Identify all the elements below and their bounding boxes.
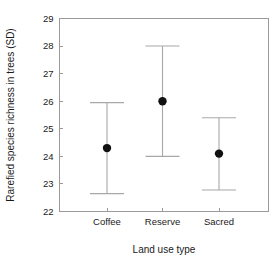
- y-tick-label: 29: [43, 13, 54, 24]
- y-tick-label: 23: [43, 178, 54, 189]
- y-tick-label: 22: [43, 206, 54, 217]
- x-tick-label: Sacred: [204, 216, 234, 227]
- y-tick-label: 25: [43, 123, 54, 134]
- chart-figure: 2223242526272829 CoffeeReserveSacred Lan…: [0, 0, 280, 260]
- y-tick-label: 26: [43, 96, 54, 107]
- y-tick-label: 27: [43, 68, 54, 79]
- y-tick-label: 24: [43, 151, 54, 162]
- mean-point-marker: [215, 149, 223, 157]
- x-axis-title: Land use type: [133, 244, 196, 255]
- y-axis-title: Rarefied species richness in trees (SD): [5, 28, 16, 201]
- errorbar-plot: 2223242526272829 CoffeeReserveSacred Lan…: [0, 0, 280, 260]
- y-tick-label: 28: [43, 40, 54, 51]
- x-tick-label: Reserve: [145, 216, 180, 227]
- x-tick-label: Coffee: [93, 216, 121, 227]
- mean-point-marker: [158, 97, 166, 105]
- mean-point-marker: [103, 144, 111, 152]
